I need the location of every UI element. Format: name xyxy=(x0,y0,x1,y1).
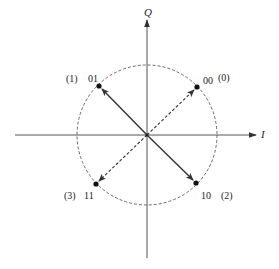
point-00-index: (0) xyxy=(218,72,230,84)
point-10 xyxy=(193,180,198,185)
point-11-index: (3) xyxy=(64,190,76,202)
i-axis-label: I xyxy=(260,128,266,140)
point-01-index: (1) xyxy=(66,73,78,85)
point-11-bits: 11 xyxy=(84,190,94,201)
vector-00-dashed xyxy=(147,90,194,135)
point-00 xyxy=(194,84,199,89)
vector-01-solid xyxy=(102,89,147,135)
point-11 xyxy=(93,181,98,186)
q-axis-label: Q xyxy=(144,6,152,18)
vector-10-solid xyxy=(147,135,193,180)
origin-point xyxy=(146,134,149,137)
qpsk-constellation-diagram: Q I (1) 01 00 (0) (3) 11 10 (2) xyxy=(0,0,279,269)
point-01 xyxy=(96,83,101,88)
point-00-bits: 00 xyxy=(203,75,213,86)
vector-11-dashed xyxy=(99,135,147,181)
point-10-bits: 10 xyxy=(201,190,211,201)
point-10-index: (2) xyxy=(221,190,233,202)
point-01-bits: 01 xyxy=(88,73,98,84)
